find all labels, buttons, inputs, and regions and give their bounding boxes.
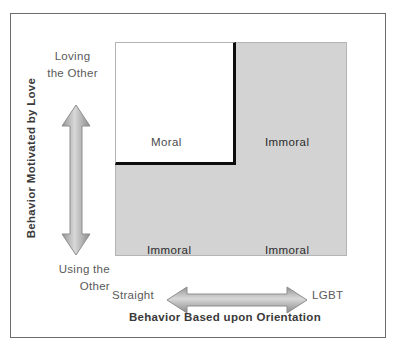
y-axis-title: Behavior Motivated by Love <box>25 58 37 258</box>
y-axis-low-label: Using the Other <box>33 261 110 295</box>
y-axis-high-label: Loving the Other <box>35 48 110 82</box>
quadrant-label-immoral-bottom-right: Immoral <box>265 244 309 256</box>
x-axis-left-label: Straight <box>112 289 154 301</box>
two-by-two-matrix: Moral Immoral Immoral Immoral <box>115 42 347 256</box>
y-axis-high-label-line1: Loving <box>35 48 110 65</box>
x-axis-right-label: LGBT <box>312 289 343 301</box>
quadrant-label-moral: Moral <box>151 136 182 148</box>
horizontal-double-arrow-icon <box>166 286 308 314</box>
x-axis-title: Behavior Based upon Orientation <box>80 311 370 323</box>
y-axis-high-label-line2: the Other <box>35 65 110 82</box>
y-axis-low-label-line2: Other <box>33 278 110 295</box>
quadrant-label-immoral-top-right: Immoral <box>265 136 309 148</box>
diagram-canvas: Behavior Motivated by Love Loving the Ot… <box>0 0 399 352</box>
vertical-double-arrow-icon <box>61 104 91 256</box>
y-axis-low-label-line1: Using the <box>33 261 110 278</box>
quadrant-label-immoral-bottom-left: Immoral <box>147 244 191 256</box>
